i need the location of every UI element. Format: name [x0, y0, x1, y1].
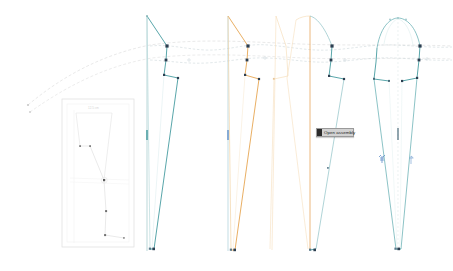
pattern-canvas[interactable]: 12.5 cm Open assembly [0, 0, 453, 271]
upper-guide-curve [150, 45, 452, 50]
detail-measure-label: 12.5 cm [88, 106, 99, 110]
pattern-panel-left[interactable] [146, 15, 179, 251]
pattern-panel-second[interactable] [228, 16, 260, 251]
tooltip-label: Open assembly [324, 129, 355, 136]
assembly-icon [317, 129, 322, 136]
detail-frame[interactable] [62, 99, 134, 247]
pattern-drawing[interactable] [0, 0, 453, 271]
pattern-panel-right[interactable] [373, 17, 422, 250]
open-assembly-tooltip[interactable]: Open assembly [316, 128, 354, 137]
pattern-panel-second-mirror[interactable] [270, 16, 288, 250]
lower-guide-curve [150, 57, 452, 63]
